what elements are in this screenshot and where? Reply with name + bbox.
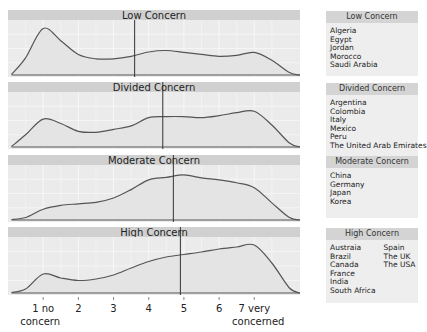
legend-country: Saudi Arabia [330,61,378,70]
panel-title: Divided Concern [113,82,196,93]
legend-group-title: High Concern [326,228,418,240]
panel-title: Low Concern [122,10,186,21]
x-tick-label: 3 [110,303,116,314]
legend-group-divided-concern: Divided ConcernArgentinaColombiaItalyMex… [326,83,418,157]
panel-moderate-concern: Moderate Concern [8,155,300,223]
legend-country: The USA [384,261,416,270]
x-tick-label: 5 [181,303,187,314]
legend-group-title: Low Concern [326,11,418,23]
legend-group-title: Divided Concern [326,83,418,95]
legend-group-moderate-concern: Moderate ConcernChinaGermanyJapanKorea [326,156,418,218]
x-tick-label: 4 [146,303,152,314]
x-tick-label: 7 very [238,303,270,314]
legend-country: The United Arab Emirates [330,142,427,151]
panel-low-concern: Low Concern [8,10,300,78]
panel-divided-concern: Divided Concern [8,82,300,150]
legend-country-list: AlgeriaEgyptJordanMoroccoSaudi Arabia [326,23,418,74]
x-axis: 1 noconcern234567 veryconcerned [20,297,284,327]
legend-group-low-concern: Low ConcernAlgeriaEgyptJordanMoroccoSaud… [326,11,418,76]
panel-title: Moderate Concern [108,155,200,166]
x-tick-label-line2: concern [20,316,60,327]
x-tick-label-line2: concerned [232,316,284,327]
x-tick-label: 6 [216,303,222,314]
panel-high-concern: High Concern [8,227,300,296]
legend-group-title: Moderate Concern [326,156,418,168]
legend-group-high-concern: High ConcernAustraiaBrazilCanadaFranceIn… [326,228,418,303]
x-tick-label: 1 no [32,303,54,314]
panel-title: High Concern [120,227,188,238]
legend-country-list: ChinaGermanyJapanKorea [326,168,418,210]
legend-country: Korea [330,198,364,207]
legend-country-list: ArgentinaColombiaItalyMexicoPeruThe Unit… [326,95,418,155]
legend-country: South Africa [330,287,376,296]
x-tick-label: 2 [75,303,81,314]
legend-country-list: AustraiaBrazilCanadaFranceIndiaSouth Afr… [326,240,418,300]
